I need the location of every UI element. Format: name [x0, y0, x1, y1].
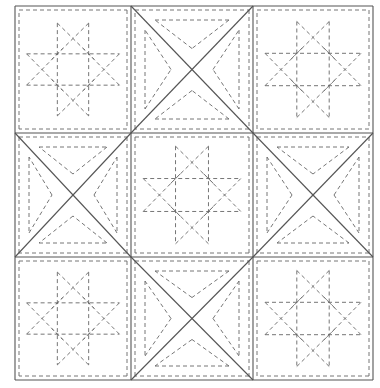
quilting-triangle: [267, 157, 292, 195]
quilting-triangle: [334, 157, 359, 195]
quilting-triangle: [155, 271, 192, 298]
quilting-triangle: [145, 70, 171, 110]
quilting-triangle: [213, 281, 239, 319]
quilting-triangle: [145, 30, 171, 70]
quilting-triangle: [39, 147, 73, 174]
quilting-triangle: [213, 70, 239, 110]
quilting-triangle: [29, 195, 52, 233]
quilting-triangle: [192, 91, 229, 120]
quilting-triangle: [192, 20, 229, 49]
quilting-triangle: [155, 340, 192, 367]
star-block: [135, 137, 249, 253]
quilting-triangle: [192, 340, 229, 367]
quilting-triangle: [145, 319, 171, 357]
quilting-triangle: [155, 20, 192, 49]
hourglass-block: [253, 133, 373, 257]
quilting-triangle: [192, 271, 229, 298]
quilting-triangle: [94, 157, 117, 195]
star-block: [19, 10, 127, 129]
quilting-triangle: [155, 91, 192, 120]
quilting-triangle: [94, 195, 117, 233]
star-block: [19, 261, 127, 376]
quilting-triangle: [145, 281, 171, 319]
quilting-triangle: [39, 216, 73, 243]
quilting-triangle: [73, 216, 107, 243]
hourglass-block: [15, 133, 131, 257]
quilting-triangle: [213, 30, 239, 70]
quilting-triangle: [267, 195, 292, 233]
star-block: [257, 10, 369, 129]
quilting-triangle: [29, 157, 52, 195]
quilt-diagram: [0, 0, 380, 388]
quilting-triangle: [213, 319, 239, 357]
quilting-triangle: [73, 147, 107, 174]
quilting-triangle: [334, 195, 359, 233]
quilting-triangle: [313, 216, 349, 243]
hourglass-block: [131, 257, 253, 380]
quilting-triangle: [277, 147, 313, 174]
quilting-triangle: [277, 216, 313, 243]
hourglass-block: [131, 6, 253, 133]
quilt-frame: [15, 6, 373, 380]
quilting-triangle: [313, 147, 349, 174]
star-block: [257, 261, 369, 376]
